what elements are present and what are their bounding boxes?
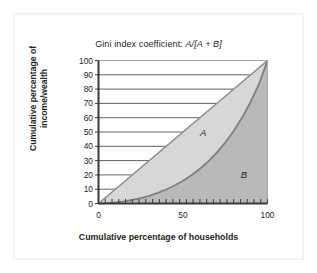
- y-tick-label-10: 10: [84, 184, 94, 194]
- y-tick-label-100: 100: [79, 56, 93, 66]
- region-label-b: B: [241, 169, 248, 180]
- y-tick-label-20: 20: [84, 170, 94, 180]
- y-tick-label-80: 80: [84, 84, 94, 94]
- y-tick-label-30: 30: [84, 156, 94, 166]
- y-tick-label-0: 0: [88, 199, 93, 209]
- y-tick-label-50: 50: [84, 127, 94, 137]
- y-tick-label-40: 40: [84, 141, 94, 151]
- gini-index-figure: Gini index coefficient: A/[A + B] Cumula…: [0, 0, 317, 273]
- x-tick-label-0: 0: [96, 210, 101, 220]
- region-label-a: A: [199, 127, 206, 138]
- y-tick-label-60: 60: [84, 113, 94, 123]
- y-tick-label-90: 90: [84, 70, 94, 80]
- x-tick-label-50: 50: [178, 210, 188, 220]
- y-tick-label-70: 70: [84, 98, 94, 108]
- plot-area: 0102030405060708090100050100AB: [0, 0, 317, 273]
- x-tick-label-100: 100: [261, 210, 275, 220]
